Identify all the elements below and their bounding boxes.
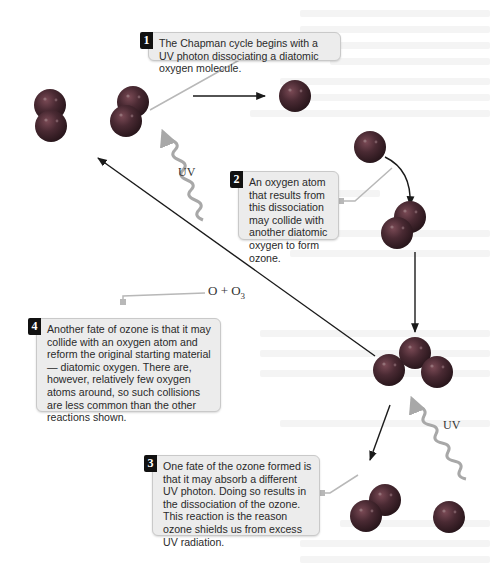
callout-step-2: 2 An oxygen atom that results from this … — [238, 171, 339, 240]
callout-step-3: 3 One fate of the ozone formed is that i… — [152, 455, 320, 536]
step-number: 4 — [32, 319, 38, 333]
step-badge-2: 2 — [230, 171, 243, 188]
molecule-o2-start — [34, 89, 67, 142]
callout-step-1: 1 The Chapman cycle begins with a UV pho… — [148, 32, 341, 61]
arrow-ozone-dissociation — [370, 405, 390, 460]
callout-text: An oxygen atom that results from this di… — [249, 176, 327, 264]
callout-connectors — [120, 50, 392, 496]
step-badge-1: 1 — [140, 32, 153, 49]
atom-o-right — [354, 131, 386, 163]
uv-label-top: UV — [178, 165, 195, 180]
molecule-o2-dissociating — [110, 86, 149, 137]
callout-step-4: 4 Another fate of ozone is that it may c… — [36, 318, 221, 412]
equation-label-o-plus-o3: O + O3 — [208, 283, 245, 301]
uv-label-bottom: UV — [443, 418, 460, 433]
step-number: 2 — [234, 172, 240, 186]
step-number: 1 — [144, 33, 150, 47]
step-badge-4: 4 — [28, 318, 41, 335]
molecule-o3-ozone — [373, 337, 453, 388]
atom-o-product — [433, 501, 465, 533]
equation-subscript: 3 — [241, 291, 246, 301]
arrow-atom-to-o2 — [385, 157, 410, 205]
uv-wave-bottom — [412, 399, 466, 479]
atom-o-top — [279, 80, 311, 112]
step-number: 3 — [148, 456, 154, 470]
molecule-o2-colliding — [381, 201, 426, 249]
step-badge-3: 3 — [144, 455, 157, 472]
callout-text: Another fate of ozone is that it may col… — [47, 323, 211, 423]
equation-text: O + O — [208, 283, 241, 298]
callout-text: One fate of the ozone formed is that it … — [163, 460, 311, 548]
molecule-o2-product — [350, 484, 401, 532]
